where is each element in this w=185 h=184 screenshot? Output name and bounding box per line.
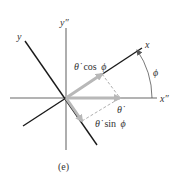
projection-line-cos	[102, 74, 120, 98]
theta-dot-sin-phi-vector	[66, 98, 82, 121]
y-label: y	[16, 31, 22, 42]
phi-angle-arc	[137, 50, 152, 98]
theta-dot-cos-phi-vector	[66, 74, 102, 98]
x-axis-negative	[23, 98, 66, 126]
theta-dot-sin-phi-label: θ̇ sin ϕ	[95, 118, 126, 129]
vector-decomposition-diagram: y″ y x x″ ϕ θ̇ cos ϕ θ̇ θ̇ sin ϕ (e)	[0, 0, 185, 184]
x-double-prime-label: x″	[159, 93, 169, 104]
y-axis	[25, 41, 97, 145]
figure-caption: (e)	[58, 161, 69, 173]
x-label: x	[144, 39, 150, 50]
theta-dot-cos-phi-label: θ̇ cos ϕ	[74, 61, 106, 72]
phi-label: ϕ	[153, 67, 158, 78]
y-double-prime-label: y″	[59, 17, 69, 28]
theta-dot-label: θ̇	[117, 104, 125, 115]
